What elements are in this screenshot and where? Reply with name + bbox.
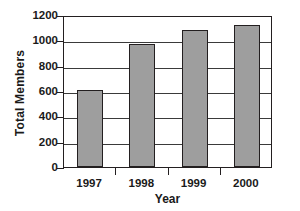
x-axis-tick-mark <box>168 168 169 175</box>
x-axis-tick-mark <box>115 168 116 175</box>
y-axis-tick-label: 1200 <box>32 10 58 22</box>
y-axis-tick-labels: 020040060080010001200 <box>26 16 58 168</box>
bar <box>77 90 103 167</box>
bar <box>234 25 260 167</box>
bar-slot <box>116 17 168 167</box>
x-axis-tick-labels: 1997199819992000 <box>63 175 272 191</box>
bar-slot <box>169 17 221 167</box>
bar-chart: Total Members 020040060080010001200 1997… <box>0 0 300 211</box>
bar-slot <box>64 17 116 167</box>
plot-area <box>63 16 272 168</box>
y-axis-tick-label: 400 <box>39 112 58 124</box>
y-axis-tick-label: 800 <box>39 61 58 73</box>
bars <box>64 17 271 167</box>
x-axis-tick-marks <box>63 168 272 175</box>
x-axis-tick-label: 2000 <box>233 175 259 191</box>
bar <box>129 44 155 167</box>
y-axis-tick-label: 600 <box>39 86 58 98</box>
bar <box>182 30 208 167</box>
x-axis-tick-mark <box>220 168 221 175</box>
y-axis-tick-label: 1000 <box>32 36 58 48</box>
x-axis-tick-label: 1998 <box>129 175 155 191</box>
bar-slot <box>221 17 273 167</box>
x-axis-tick-label: 1997 <box>76 175 102 191</box>
x-axis-title: Year <box>63 191 272 207</box>
y-axis-tick-label: 200 <box>39 137 58 149</box>
x-axis-tick-label: 1999 <box>181 175 207 191</box>
